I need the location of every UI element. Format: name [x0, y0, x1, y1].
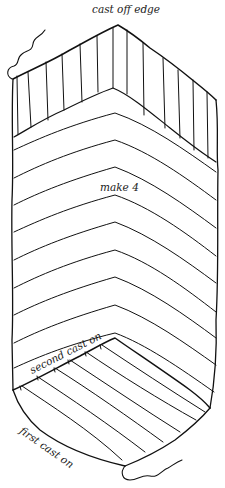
- cast-off-edge-label: cast off edge: [92, 4, 160, 15]
- diagram-drawing: [0, 0, 225, 488]
- lower-right-edge: [125, 408, 210, 466]
- make-label: make 4: [100, 182, 139, 193]
- outline-left-edge: [12, 79, 13, 390]
- second-cast-on-line: [13, 338, 210, 408]
- knitting-diagram: cast off edge make 4 second cast on firs…: [0, 0, 225, 488]
- chevron-rows: [14, 113, 216, 392]
- cast-off-band-stripes: [17, 28, 208, 158]
